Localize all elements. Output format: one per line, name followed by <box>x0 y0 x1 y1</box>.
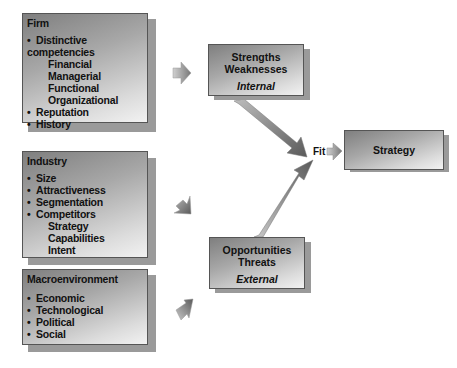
external-line1: Opportunities <box>210 244 304 256</box>
industry-subitem: Intent <box>27 244 147 256</box>
firm-item: History <box>27 118 147 130</box>
industry-box: Industry Size Attractiveness Segmentatio… <box>22 151 148 258</box>
arrow-macro-icon <box>176 299 193 320</box>
arrow-fit-to-strategy-icon <box>327 143 342 160</box>
industry-item: Size <box>27 172 147 184</box>
firm-subitem: Financial <box>27 58 147 70</box>
strategy-label: Strategy <box>373 144 415 156</box>
internal-line1: Strengths <box>209 51 303 63</box>
firm-subitem: Organizational <box>27 94 147 106</box>
industry-subitem: Strategy <box>27 220 147 232</box>
macro-item: Social <box>27 328 147 340</box>
industry-list: Size Attractiveness Segmentation Competi… <box>27 172 147 256</box>
macro-box: Macroenvironment Economic Technological … <box>22 269 148 345</box>
strategy-box: Strategy <box>344 130 444 170</box>
firm-subitem: Managerial <box>27 70 147 82</box>
internal-label: Internal <box>237 80 275 92</box>
macro-item: Economic <box>27 292 147 304</box>
firm-box: Firm Distinctive competencies Financial … <box>22 13 148 123</box>
macro-title: Macroenvironment <box>27 273 147 285</box>
firm-title: Firm <box>27 17 147 29</box>
firm-subitem: Functional <box>27 82 147 94</box>
arrow-internal-to-fit-icon <box>234 99 307 157</box>
firm-list: Distinctive competencies Financial Manag… <box>27 34 147 130</box>
macro-list: Economic Technological Political Social <box>27 292 147 340</box>
industry-title: Industry <box>27 155 147 167</box>
macro-item: Technological <box>27 304 147 316</box>
external-box: Opportunities Threats External <box>209 237 305 289</box>
external-line2: Threats <box>210 256 304 268</box>
internal-box: Strengths Weaknesses Internal <box>208 44 304 96</box>
firm-item: Distinctive competencies <box>27 34 147 58</box>
macro-item: Political <box>27 316 147 328</box>
arrow-external-to-fit-icon <box>254 160 313 237</box>
arrow-industry-icon <box>174 196 191 214</box>
firm-item: Reputation <box>27 106 147 118</box>
arrow-firm-to-internal-icon <box>173 62 191 84</box>
industry-item: Segmentation <box>27 196 147 208</box>
external-label: External <box>236 273 277 285</box>
industry-item: Competitors <box>27 208 147 220</box>
internal-line2: Weaknesses <box>209 63 303 75</box>
fit-label: Fit <box>313 146 325 157</box>
industry-item: Attractiveness <box>27 184 147 196</box>
industry-subitem: Capabilities <box>27 232 147 244</box>
